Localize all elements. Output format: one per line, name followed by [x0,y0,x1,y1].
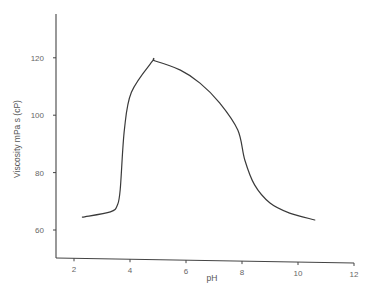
x-tick-label: 4 [128,266,133,275]
x-tick-label: 10 [294,269,303,278]
y-axis-ticks: 6080100120 [31,54,56,235]
x-tick-label: 8 [240,268,245,277]
y-tick-label: 100 [31,111,45,120]
x-axis-label: pH [207,273,218,283]
viscosity-ph-chart: 24681012 6080100120 pH Viscosity mPa s (… [0,0,371,295]
axes [56,14,354,263]
viscosity-curve [82,58,314,220]
x-tick-label: 12 [350,270,359,279]
y-tick-label: 80 [35,169,44,178]
y-axis-label: Viscosity mPa s (cP) [12,100,22,178]
x-tick-label: 2 [72,265,77,274]
x-tick-label: 6 [184,267,189,276]
y-tick-label: 120 [31,54,45,63]
y-tick-label: 60 [35,226,44,235]
x-axis-line [56,258,354,263]
